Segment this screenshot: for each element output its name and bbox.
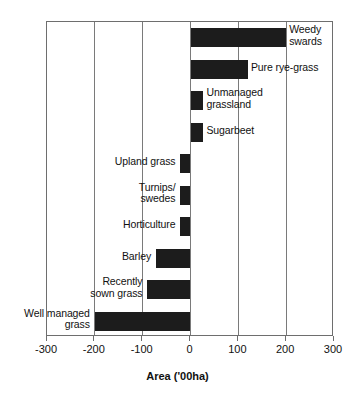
bar	[95, 312, 191, 331]
x-tick-label--100: -100	[122, 343, 162, 356]
bar-label: Horticulture	[123, 219, 176, 231]
bar-label: Barley	[122, 251, 151, 263]
bar-row	[47, 117, 332, 149]
x-tick--300	[46, 336, 47, 341]
bar-row	[47, 85, 332, 117]
x-tick--100	[141, 336, 142, 341]
bar-label: Sugarbeet	[206, 125, 254, 137]
x-tick-label--200: -200	[74, 343, 114, 356]
bar-label: Turnips/ swedes	[139, 182, 176, 205]
x-tick-label--300: -300	[26, 343, 66, 356]
x-tick-100	[237, 336, 238, 341]
bar-row	[47, 243, 332, 275]
bar	[156, 249, 190, 268]
bar	[191, 28, 287, 47]
x-tick-label-200: 200	[265, 343, 305, 356]
x-axis-title: Area ('00ha)	[0, 370, 355, 382]
bar-label: Unmanaged grassland	[206, 87, 262, 110]
bar	[180, 217, 190, 236]
x-tick-300	[333, 336, 334, 341]
bar	[180, 154, 190, 173]
bar	[191, 91, 204, 110]
bar-label: Well managed grass	[24, 308, 90, 331]
bar-label: Upland grass	[115, 156, 176, 168]
bar	[147, 280, 190, 299]
bar-row	[47, 180, 332, 212]
bar	[191, 123, 204, 142]
bar	[191, 60, 248, 79]
x-tick--200	[93, 336, 94, 341]
bar-row	[47, 211, 332, 243]
bar	[180, 186, 190, 205]
x-tick-label-100: 100	[217, 343, 257, 356]
x-tick-0	[189, 336, 190, 341]
x-tick-label-0: 0	[170, 343, 210, 356]
bar-chart: -300-200-1000100200300 Area ('00ha) Weed…	[0, 0, 355, 403]
bar-row	[47, 148, 332, 180]
x-tick-label-300: 300	[313, 343, 353, 356]
x-tick-200	[285, 336, 286, 341]
bar-label: Pure rye-grass	[251, 62, 318, 74]
bar-label: Weedy swards	[289, 24, 322, 47]
bar-label: Recently sown grass	[90, 276, 142, 299]
